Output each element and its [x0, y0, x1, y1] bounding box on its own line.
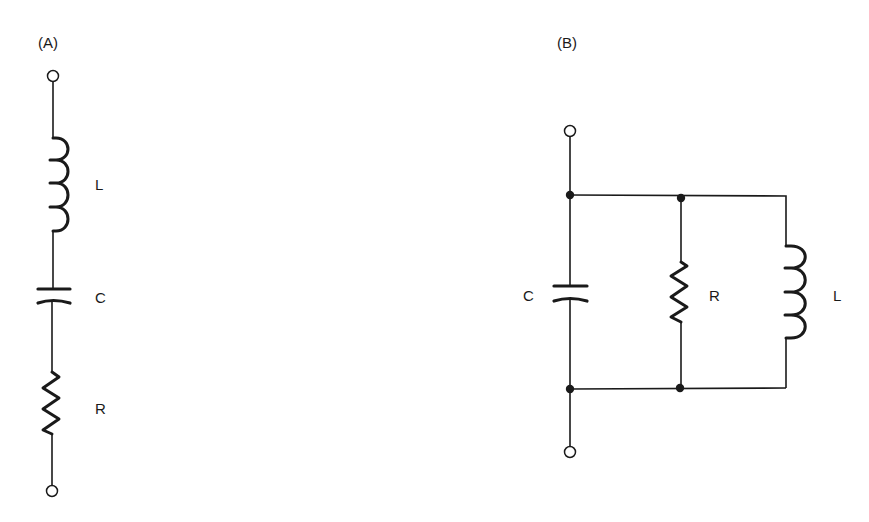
- parallel-circuit-b: [554, 126, 805, 458]
- inductor-a-icon: [50, 138, 68, 231]
- label-a-resistor: R: [95, 401, 106, 416]
- terminal-a-top: [48, 71, 59, 82]
- series-circuit-a: [38, 71, 70, 497]
- label-a-capacitor: C: [95, 290, 106, 305]
- terminal-a-bottom: [47, 486, 58, 497]
- label-a-inductor: L: [95, 177, 103, 192]
- circuit-a-title: (A): [38, 35, 58, 50]
- circuit-b-title: (B): [557, 35, 577, 50]
- resistor-a-icon: [43, 372, 59, 434]
- label-b-inductor: L: [833, 288, 841, 303]
- junction-b-bottom-mid: [676, 384, 684, 392]
- resistor-b-icon: [671, 262, 687, 322]
- terminal-b-bottom: [565, 447, 576, 458]
- wire-b-top-rail: [570, 195, 786, 245]
- capacitor-a-icon: [38, 289, 70, 303]
- label-b-capacitor: C: [523, 288, 534, 303]
- inductor-b-icon: [785, 246, 805, 338]
- circuit-diagram-canvas: [0, 0, 869, 522]
- terminal-b-top: [565, 126, 576, 137]
- label-b-resistor: R: [709, 288, 720, 303]
